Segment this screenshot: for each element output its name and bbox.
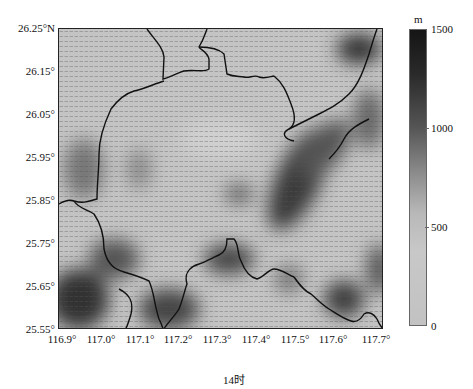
x-tick-label: 117.5° (281, 333, 310, 345)
colorbar-tick (425, 128, 429, 129)
y-tick-label: 26.05° (26, 108, 55, 120)
x-tick-label: 117.7° (362, 333, 391, 345)
colorbar-tick (425, 227, 429, 228)
y-tick-label: 25.85° (26, 194, 55, 206)
y-tick-label: 25.75° (26, 237, 55, 249)
x-tick-label: 117.0° (87, 333, 116, 345)
x-tick-label: 117.3° (203, 333, 232, 345)
colorbar-unit: m (414, 13, 423, 25)
x-tick-label: 117.4° (242, 333, 271, 345)
y-tick-label: 26.25°N (18, 22, 55, 34)
terrain-map (59, 29, 383, 329)
figure-caption: 14时 (223, 371, 245, 387)
y-tick-label: 25.65° (26, 280, 55, 292)
x-tick-label: 117.2° (164, 333, 193, 345)
elevation-colorbar (409, 29, 427, 326)
colorbar-label: 1000 (431, 122, 453, 134)
y-tick-label: 25.95° (26, 151, 55, 163)
y-tick-label: 26.15° (26, 65, 55, 77)
map-plot-area: 5 m/s ⟶ (58, 28, 383, 329)
colorbar-label: 500 (431, 221, 448, 233)
x-tick-label: 116.9° (48, 333, 77, 345)
colorbar-label: 0 (431, 320, 437, 332)
x-tick-label: 117.1° (126, 333, 155, 345)
x-tick-label: 117.6° (319, 333, 348, 345)
wind-vectors (59, 29, 383, 329)
colorbar-label: 1500 (431, 23, 453, 35)
